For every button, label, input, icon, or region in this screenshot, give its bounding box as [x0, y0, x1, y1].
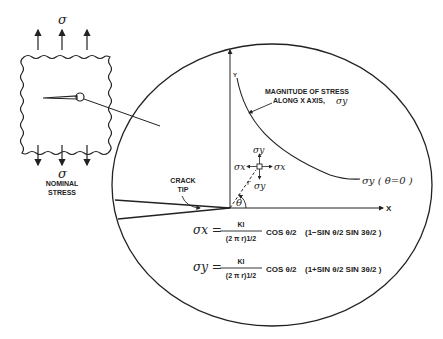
element-sigma-x-right: σx [274, 162, 285, 172]
eq2-denominator: (2 π r)1/2 [226, 272, 256, 280]
stress-element [257, 164, 262, 169]
crack-tip-label-line2: TIP [178, 186, 189, 193]
eq1-bracket: (1−SIN θ/2 SIN 3θ/2 ) [305, 228, 382, 237]
annotation-leader [249, 103, 272, 113]
eq1-denominator: (2 π r)1/2 [226, 235, 256, 243]
element-sigma-y-bottom: σy [254, 181, 266, 191]
eq1-numerator: KI [238, 221, 245, 228]
radius-line [230, 170, 256, 208]
curve-annotation-symbol: σy [336, 96, 348, 106]
r-label: r [247, 179, 251, 187]
x-axis-label: X [386, 204, 392, 213]
bottom-stress-label: σ [58, 166, 68, 181]
curve-annotation-line1: MAGNITUDE OF STRESS [265, 88, 349, 95]
eq2-lhs: σy = [193, 260, 222, 274]
nominal-label: NOMINAL [46, 180, 79, 187]
crack-tip-label-line1: CRACK [170, 177, 195, 184]
magnified-view: Y X MAGNITUDE OF STRESS ALONG X AXIS, σy… [112, 44, 432, 326]
theta-label: θ [236, 197, 242, 208]
equation-sigma-x: σx = KI (2 π r)1/2 COS θ/2 (1−SIN θ/2 SI… [193, 221, 382, 243]
equation-sigma-y: σy = KI (2 π r)1/2 COS θ/2 (1+SIN θ/2 SI… [193, 258, 382, 280]
crack [43, 96, 77, 99]
element-sigma-x-left: σx [234, 162, 245, 172]
y-axis-label: Y [233, 72, 237, 78]
eq2-bracket: (1+SIN θ/2 SIN 3θ/2 ) [305, 265, 382, 274]
specimen-body [21, 56, 112, 155]
crack-tip-stress-diagram: σ σ NOMINAL STRESS Y X MAGNITUDE OF STRE… [0, 0, 443, 339]
eq1-lhs: σx = [193, 223, 222, 237]
element-sigma-y-top: σy [253, 145, 265, 155]
eq1-cos: COS θ/2 [266, 228, 297, 237]
eq2-cos: COS θ/2 [266, 265, 297, 274]
curve-annotation-line2: ALONG X AXIS, [273, 97, 325, 105]
specimen: σ σ NOMINAL STRESS [21, 12, 161, 196]
eq2-numerator: KI [238, 258, 245, 265]
curve-label: σy ( θ=0 ) [362, 175, 413, 186]
top-stress-label: σ [58, 12, 68, 27]
crack-upper-face [115, 200, 230, 208]
magnify-leader-line [84, 99, 160, 126]
crack-lower-face [118, 208, 230, 219]
stress-label: STRESS [48, 189, 76, 196]
